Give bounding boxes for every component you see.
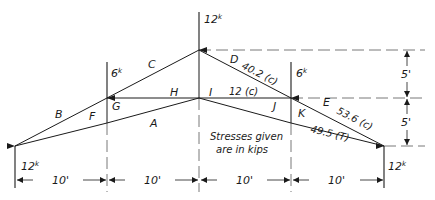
stress-label-ek: 53.6 (c) [335, 105, 375, 132]
dim-rise-2: 5' [401, 116, 411, 129]
right-reaction-label: 12k [388, 160, 407, 173]
right-panel-load-label: 6k [296, 67, 308, 80]
space-label-g: G [112, 100, 121, 113]
dim-span-1: 10' [52, 174, 69, 187]
stress-label-di: 40.2 (c) [240, 60, 280, 87]
dim-span-3: 10' [236, 174, 253, 187]
space-labels: A B C D E F G H I J K [55, 53, 330, 130]
stress-label-ij: 12 (c) [229, 86, 258, 97]
left-reaction-label: 12k [21, 160, 40, 173]
note-line-1: Stresses given [210, 131, 283, 142]
apex-load-label: 12k [204, 13, 223, 26]
space-label-b: B [55, 108, 63, 121]
note-line-2: are in kips [216, 144, 268, 155]
space-label-c: C [148, 58, 156, 71]
space-label-a: A [149, 117, 158, 130]
space-label-i: I [209, 86, 212, 99]
stress-label-ak: 49.5 (T) [310, 123, 351, 143]
truss-diagram: 12k 6k 6k 12k 12k A B C D E F G H I J K … [0, 0, 435, 200]
space-label-k: K [298, 107, 306, 120]
space-label-d: D [230, 53, 238, 66]
dim-span-2: 10' [144, 174, 161, 187]
space-label-f: F [89, 110, 96, 123]
dim-rise-1: 5' [401, 68, 411, 81]
space-label-h: H [170, 86, 178, 99]
space-label-e: E [323, 96, 330, 109]
space-label-j: J [271, 100, 276, 113]
left-panel-load-label: 6k [111, 67, 123, 80]
dim-span-4: 10' [328, 174, 345, 187]
